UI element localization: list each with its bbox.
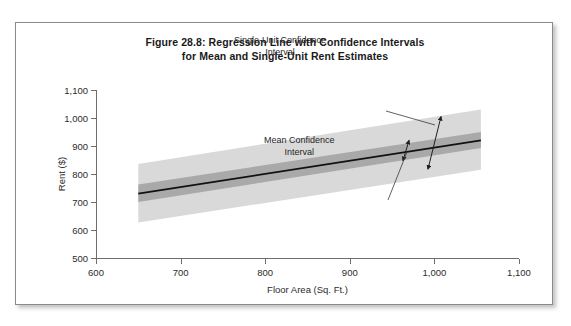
x-tick-label-700: 700 <box>173 267 189 278</box>
y-tick-label-800: 800 <box>72 169 88 180</box>
y-tick-label-600: 600 <box>72 225 88 236</box>
mean-leader-line <box>388 152 407 200</box>
plot-area: 1,100 1,000 900 800 700 600 500 600 700 … <box>96 90 519 258</box>
y-tick-label-700: 700 <box>72 197 88 208</box>
figure-frame: Figure 28.8: Regression Line with Confid… <box>15 22 553 305</box>
x-tick-label-1100: 1,100 <box>507 267 531 278</box>
annotation-mean-confidence-interval: Mean Confidence Interval <box>264 135 335 158</box>
annotation-mean-line-1: Mean Confidence <box>264 135 335 145</box>
mean-interval-arrow <box>403 140 409 160</box>
x-tick-label-800: 800 <box>257 267 273 278</box>
annotation-svg <box>96 90 519 258</box>
x-tick-1000 <box>434 259 435 264</box>
x-tick-label-1000: 1,000 <box>423 267 447 278</box>
y-axis-title: Rent ($) <box>56 157 67 191</box>
y-tick-label-1000: 1,000 <box>64 113 88 124</box>
annotation-mean-line-2: Interval <box>264 147 335 159</box>
x-tick-label-900: 900 <box>342 267 358 278</box>
x-axis-spine <box>96 258 519 259</box>
y-tick-label-900: 900 <box>72 141 88 152</box>
x-tick-1100 <box>519 259 520 264</box>
y-tick-label-500: 500 <box>72 253 88 264</box>
y-tick-label-1100: 1,100 <box>64 85 88 96</box>
x-tick-700 <box>181 259 182 264</box>
x-tick-600 <box>96 259 97 264</box>
x-tick-900 <box>350 259 351 264</box>
annotation-single-unit-line-1: Single-Unit Confidence <box>234 35 326 45</box>
x-axis-title: Floor Area (Sq. Ft.) <box>96 284 519 295</box>
x-tick-800 <box>265 259 266 264</box>
annotation-single-unit-line-2: Interval <box>234 47 326 59</box>
single-unit-leader-line <box>386 111 435 125</box>
x-tick-label-600: 600 <box>88 267 104 278</box>
annotation-single-unit-confidence-interval: Single-Unit Confidence Interval <box>234 35 326 58</box>
